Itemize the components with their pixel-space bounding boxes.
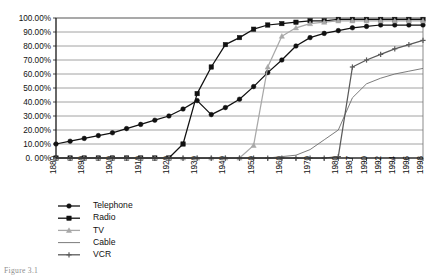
- data-point-marker: [237, 35, 241, 39]
- data-point-marker: [96, 133, 101, 138]
- data-point-marker: [322, 31, 327, 36]
- series-cable: [56, 68, 423, 158]
- legend-item-cable[interactable]: Cable: [58, 237, 116, 247]
- y-axis-tick-label: 60.00%: [23, 70, 51, 79]
- figure-container: 0. 00%10.00%20.00%30.00%40.00%50.00%60.0…: [0, 0, 428, 278]
- data-point-marker: [421, 23, 426, 28]
- y-axis-tick-label: 90.00%: [23, 28, 51, 37]
- legend-label: Telephone: [93, 200, 133, 210]
- legend-label: Cable: [93, 237, 116, 247]
- data-point-marker: [336, 28, 341, 33]
- data-point-marker: [265, 64, 270, 69]
- data-point-marker: [407, 23, 412, 28]
- data-point-marker: [209, 65, 213, 69]
- data-point-marker: [350, 64, 355, 69]
- data-point-marker: [280, 58, 285, 63]
- data-point-marker: [266, 23, 270, 27]
- data-point-marker: [294, 20, 298, 24]
- data-point-marker: [406, 42, 411, 47]
- data-point-marker: [223, 105, 228, 110]
- series-telephone: [54, 23, 426, 147]
- line-chart-svg: 0. 00%10.00%20.00%30.00%40.00%50.00%60.0…: [0, 6, 428, 196]
- y-axis-tick-label: 80.00%: [23, 42, 51, 51]
- data-point-marker: [195, 91, 199, 95]
- legend-item-radio[interactable]: Radio: [58, 212, 116, 222]
- y-axis-tick-label: 20.00%: [23, 126, 51, 135]
- data-point-marker: [66, 252, 71, 257]
- data-point-marker: [68, 139, 73, 144]
- data-point-marker: [392, 23, 397, 28]
- y-axis-tick-label: 40.00%: [23, 98, 51, 107]
- data-point-marker: [181, 142, 185, 146]
- data-point-marker: [378, 23, 383, 28]
- data-point-marker: [138, 122, 143, 127]
- data-point-marker: [420, 38, 425, 43]
- data-point-marker: [167, 114, 172, 119]
- y-axis-tick-label: 30.00%: [23, 112, 51, 121]
- legend-label: Radio: [93, 212, 116, 222]
- data-point-marker: [364, 57, 369, 62]
- data-point-marker: [251, 84, 256, 89]
- chart-legend: TelephoneRadioTVCableVCR: [56, 196, 256, 266]
- y-axis-tick-label: 100.00%: [19, 14, 51, 23]
- data-point-marker: [350, 26, 355, 31]
- data-point-marker: [67, 204, 72, 209]
- data-point-marker: [67, 216, 71, 220]
- data-series-layer: [53, 17, 425, 160]
- data-point-marker: [251, 27, 255, 31]
- y-axis-tick-label: 0. 00%: [26, 154, 52, 163]
- legend-item-vcr[interactable]: VCR: [58, 249, 111, 259]
- data-point-marker: [223, 42, 227, 46]
- data-point-marker: [110, 131, 115, 136]
- data-point-marker: [251, 143, 256, 148]
- y-axis-tick-label: 10.00%: [23, 140, 51, 149]
- data-point-marker: [82, 136, 87, 141]
- legend-label: VCR: [93, 249, 111, 259]
- y-axis-tick-labels: 0. 00%10.00%20.00%30.00%40.00%50.00%60.0…: [19, 14, 51, 163]
- data-point-marker: [279, 34, 284, 39]
- data-point-marker: [294, 44, 299, 49]
- data-point-marker: [392, 46, 397, 51]
- data-point-marker: [153, 118, 158, 123]
- figure-caption: Figure 3.1: [4, 266, 38, 275]
- legend-items: TelephoneRadioTVCableVCR: [58, 200, 133, 259]
- legend-item-telephone[interactable]: Telephone: [58, 200, 133, 210]
- data-point-marker: [280, 21, 284, 25]
- data-point-marker: [364, 24, 369, 29]
- data-point-marker: [237, 97, 242, 102]
- chart-area: 0. 00%10.00%20.00%30.00%40.00%50.00%60.0…: [0, 6, 428, 196]
- data-point-marker: [308, 35, 313, 40]
- y-axis-tick-label: 70.00%: [23, 56, 51, 65]
- data-point-marker: [124, 126, 129, 131]
- data-point-marker: [209, 112, 214, 117]
- legend-label: TV: [93, 225, 104, 235]
- y-axis-tick-label: 50.00%: [23, 84, 51, 93]
- data-point-marker: [378, 52, 383, 57]
- series-radio: [54, 17, 425, 160]
- data-point-marker: [181, 107, 186, 112]
- legend-item-tv[interactable]: TV: [58, 225, 104, 235]
